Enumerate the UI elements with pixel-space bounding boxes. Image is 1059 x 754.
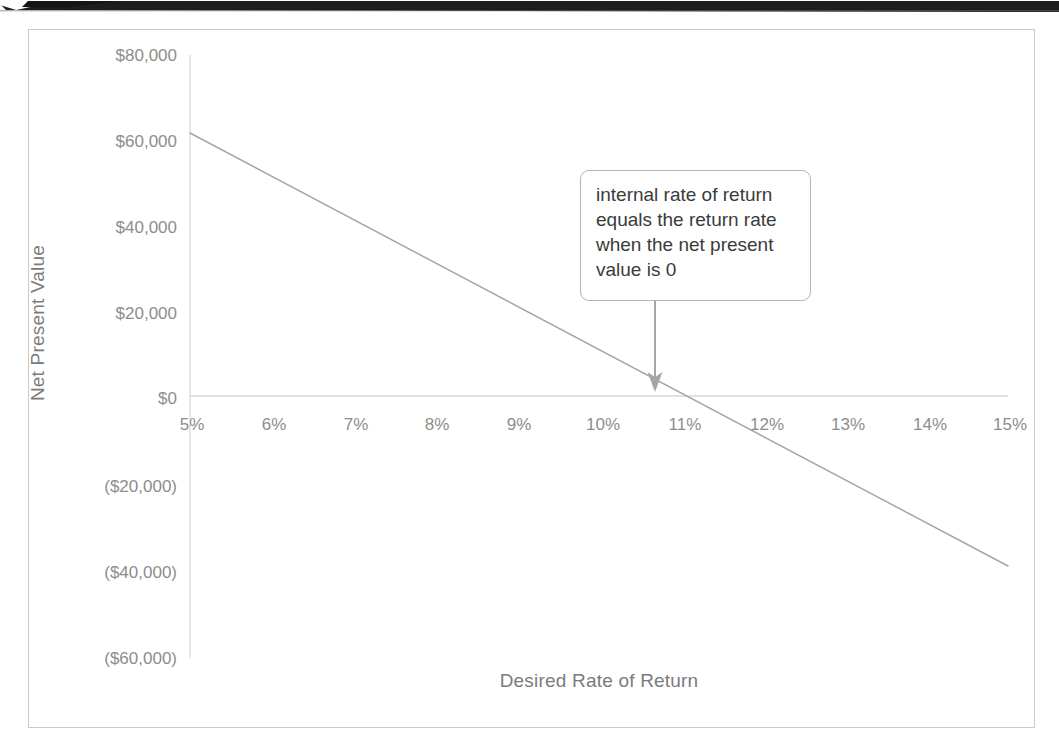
y-axis-title: Net Present Value bbox=[27, 213, 49, 433]
x-axis-title: Desired Rate of Return bbox=[190, 670, 1008, 692]
x-tick-label: 9% bbox=[484, 416, 554, 433]
x-tick-label: 8% bbox=[402, 416, 472, 433]
x-tick-label: 11% bbox=[650, 416, 720, 433]
x-tick-label: 5% bbox=[157, 416, 227, 433]
callout-line: when the net present bbox=[596, 232, 797, 257]
callout-line: value is 0 bbox=[596, 257, 797, 282]
x-tick-label: 12% bbox=[732, 416, 802, 433]
x-tick-label: 10% bbox=[568, 416, 638, 433]
x-axis-tick-labels: 5% 6% 7% 8% 9% 10% 11% 12% 13% 14% 15% bbox=[0, 0, 1059, 754]
x-tick-label: 7% bbox=[321, 416, 391, 433]
callout-line: internal rate of return bbox=[596, 182, 797, 207]
x-tick-label: 13% bbox=[813, 416, 883, 433]
x-tick-label: 14% bbox=[895, 416, 965, 433]
irr-annotation-callout: internal rate of return equals the retur… bbox=[580, 170, 811, 301]
x-tick-label: 15% bbox=[975, 416, 1045, 433]
callout-line: equals the return rate bbox=[596, 207, 797, 232]
x-tick-label: 6% bbox=[239, 416, 309, 433]
